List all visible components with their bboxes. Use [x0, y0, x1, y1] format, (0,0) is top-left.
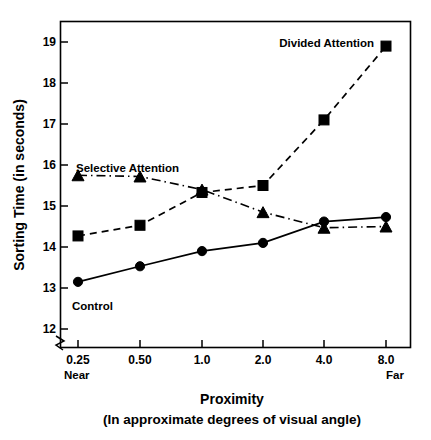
y-tick-label: 18	[43, 76, 57, 90]
data-point-marker	[380, 221, 392, 232]
data-point-marker	[73, 231, 83, 241]
x-axis-ticks	[78, 340, 386, 348]
data-point-marker	[135, 262, 144, 271]
x-tick-label: 0.25	[66, 353, 90, 367]
data-point-marker	[381, 212, 390, 221]
y-axis-title: Sorting Time (in seconds)	[11, 99, 27, 271]
data-point-marker	[258, 181, 268, 191]
x-tick-label: 8.0	[378, 353, 395, 367]
x-endpoint-near-label: Near	[64, 369, 90, 381]
x-endpoint-far-label: Far	[386, 369, 404, 381]
series-label-selective-attention: Selective Attention	[76, 162, 179, 174]
series-selective-attention: Selective Attention	[72, 162, 392, 233]
data-point-marker	[381, 41, 391, 51]
data-point-marker	[257, 207, 269, 218]
x-axis-title: Proximity	[200, 391, 264, 407]
x-tick-label: 4.0	[316, 353, 333, 367]
data-point-marker	[319, 217, 328, 226]
series-label-divided-attention: Divided Attention	[279, 37, 374, 49]
x-tick-label: 0.50	[128, 353, 152, 367]
y-axis-tick-labels: 19 18 17 16 15 14 13 12	[43, 35, 57, 336]
plot-frame	[61, 22, 411, 348]
y-tick-label: 15	[43, 199, 57, 213]
data-point-marker	[319, 115, 329, 125]
chart-figure: 19 18 17 16 15 14 13 12 0.25 0.50 1.0 2.…	[0, 0, 431, 440]
x-axis-tick-labels: 0.25 0.50 1.0 2.0 4.0 8.0	[66, 353, 394, 367]
x-tick-label: 1.0	[194, 353, 211, 367]
y-tick-label: 16	[43, 158, 57, 172]
data-point-marker	[197, 247, 206, 256]
y-tick-label: 13	[43, 281, 57, 295]
x-tick-label: 2.0	[255, 353, 272, 367]
series-label-control: Control	[72, 300, 113, 312]
sorting-time-line-chart: 19 18 17 16 15 14 13 12 0.25 0.50 1.0 2.…	[0, 0, 431, 440]
control-line	[78, 217, 386, 282]
data-point-marker	[73, 277, 82, 286]
data-point-marker	[258, 238, 267, 247]
y-tick-label: 14	[43, 240, 57, 254]
series-divided-attention: Divided Attention	[73, 37, 391, 241]
y-tick-label: 19	[43, 35, 57, 49]
y-tick-label: 12	[43, 322, 57, 336]
y-axis-ticks	[61, 42, 69, 329]
x-axis-subtitle: (In approximate degrees of visual angle)	[103, 412, 361, 427]
y-tick-label: 17	[43, 117, 57, 131]
divided-attention-line	[78, 46, 386, 236]
data-point-marker	[135, 220, 145, 230]
